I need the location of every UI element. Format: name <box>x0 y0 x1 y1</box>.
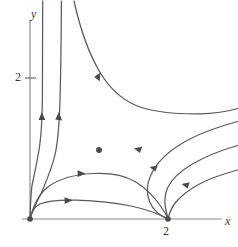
x-axis-label: x <box>225 215 230 227</box>
y-axis-label: y <box>31 8 36 20</box>
phase-plot-canvas <box>0 0 238 247</box>
trajectory-right-upper <box>147 122 237 220</box>
y-axis-tick-label-2: 2 <box>15 71 21 83</box>
trajectory-arc-lower <box>30 200 168 219</box>
trajectory-arc-upper <box>30 173 168 219</box>
arrow-marker-arc-upper <box>78 170 86 177</box>
arrow-marker-arc-lower <box>65 197 73 204</box>
trajectory-vertical-mid <box>30 1 61 219</box>
x-axis-tick-label-2: 2 <box>163 225 169 237</box>
axes-group <box>22 20 222 221</box>
arrow-marker-vertical-left <box>39 112 46 120</box>
phase-portrait-figure: y x 2 2 <box>0 0 238 247</box>
arrow-marker-right-upper <box>134 147 142 153</box>
trajectory-vertical-left <box>30 1 43 219</box>
equilibrium-interior-dot <box>96 147 102 153</box>
equilibrium-saddle-dot <box>165 216 171 222</box>
arrow-marker-vertical-mid <box>55 112 62 121</box>
direction-arrows-group <box>39 73 190 205</box>
arrow-marker-right-lower <box>182 182 190 188</box>
trajectory-right-lower <box>168 170 238 219</box>
arrow-marker-separatrix <box>94 73 100 82</box>
equilibrium-origin-dot <box>27 216 33 222</box>
separatrix-stable-incoming <box>74 1 238 114</box>
trajectory-right-middle <box>165 146 238 220</box>
trajectories-group <box>30 1 238 219</box>
